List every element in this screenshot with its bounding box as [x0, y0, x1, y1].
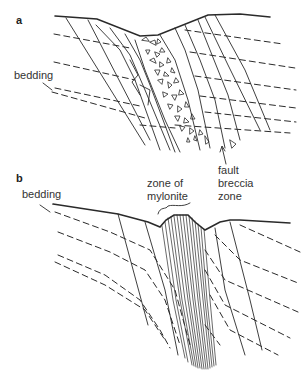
mylonite-label-line1: zone of [147, 177, 183, 189]
fault-breccia-label-line3: zone [218, 190, 242, 202]
bedding-lines-a-right [140, 30, 296, 133]
fault-breccia-label-line2: breccia [218, 177, 253, 189]
bedding-label-b: bedding [22, 188, 61, 200]
mylonite-label-line2: mylonite [147, 190, 188, 202]
fault-breccia-label-line1: fault [218, 164, 239, 176]
mylonite-brace [158, 203, 190, 214]
bedding-lines-a-left [52, 34, 145, 118]
mylonite-lines [162, 215, 216, 369]
ground-surface-a [55, 14, 270, 36]
bedding-arrow-b [40, 205, 50, 212]
bedding-lines-b-right [205, 225, 300, 355]
panel-a-diagram [43, 14, 296, 164]
panel-b-diagram [40, 203, 300, 369]
breccia-arrow [220, 146, 226, 164]
ground-surface-b [53, 204, 290, 230]
bedding-label-a: bedding [14, 69, 53, 81]
fault-strands-b [118, 214, 262, 355]
panel-label-b: b [16, 172, 23, 184]
panel-label-a: a [16, 14, 22, 26]
bedding-arrow-a [43, 83, 52, 90]
